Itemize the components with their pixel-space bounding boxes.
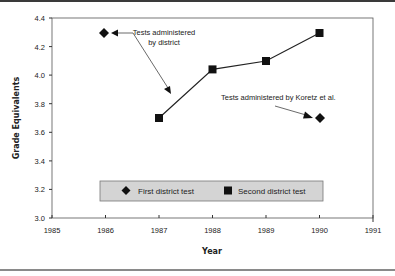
svg-text:4.2: 4.2 [35,43,45,52]
legend-label-second: Second district test [238,187,306,196]
square-marker [316,29,324,37]
y-tick: 4.4 [35,14,52,23]
arrowhead-icon [111,30,118,37]
series-first-district-test [99,28,325,123]
x-axis-title: Year [201,247,222,256]
legend-square-icon [224,187,232,195]
y-tick: 4.0 [35,71,52,80]
svg-text:Tests administered: Tests administered [133,28,196,37]
y-tick: 3.4 [35,157,52,166]
chart-canvas: 3.0 3.2 3.4 3.6 3.8 4.0 4.2 4.4 1985 198… [0,0,395,276]
diamond-marker [315,113,325,123]
y-tick: 3.6 [35,128,52,137]
svg-text:4.0: 4.0 [35,71,45,80]
svg-text:1988: 1988 [204,226,221,235]
svg-text:3.6: 3.6 [35,128,45,137]
svg-text:1989: 1989 [258,226,275,235]
y-axis: 3.0 3.2 3.4 3.6 3.8 4.0 4.2 4.4 [35,14,52,223]
svg-text:Tests administered by Koretz e: Tests administered by Koretz et al. [221,93,336,102]
series-second-district-test [155,29,324,122]
square-marker [262,57,270,65]
legend-label-first: First district test [138,187,195,196]
y-tick: 3.8 [35,100,52,109]
svg-text:3.2: 3.2 [35,185,45,194]
svg-text:3.8: 3.8 [35,100,45,109]
annotation-district: Tests administered by district [111,28,195,94]
svg-text:4.4: 4.4 [35,14,45,23]
svg-text:by district: by district [148,38,181,47]
svg-text:3.4: 3.4 [35,157,45,166]
svg-text:1985: 1985 [44,226,61,235]
svg-text:1990: 1990 [311,226,328,235]
legend: First district test Second district test [100,181,323,201]
svg-text:3.0: 3.0 [35,214,45,223]
svg-text:1991: 1991 [365,226,382,235]
arrowhead-icon [303,112,313,119]
square-marker [155,114,163,122]
square-marker [209,65,217,73]
y-tick: 4.2 [35,43,52,52]
svg-text:1987: 1987 [151,226,168,235]
svg-text:1986: 1986 [97,226,114,235]
y-axis-title: Grade Equivalents [12,76,21,159]
y-tick: 3.2 [35,185,52,194]
y-tick: 3.0 [35,214,52,223]
diamond-marker [99,28,109,38]
bottom-rule [0,269,395,271]
